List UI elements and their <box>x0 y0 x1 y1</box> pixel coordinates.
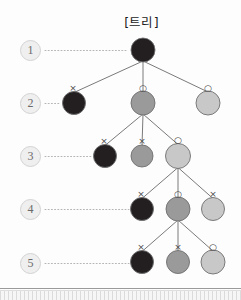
level-badge-1: 1 <box>20 40 41 61</box>
tree-node-n3c[interactable] <box>166 144 191 169</box>
bottom-divider <box>0 288 241 289</box>
level-badge-5: 5 <box>20 253 41 274</box>
tree-node-n5a[interactable] <box>131 251 154 274</box>
tree-node-n5c[interactable] <box>201 250 225 274</box>
node-marker-n5b: × <box>174 242 182 252</box>
tree-node-n2b[interactable] <box>131 91 155 115</box>
tree-edge <box>143 61 208 92</box>
node-marker-n5c: ○ <box>209 242 217 252</box>
node-marker-n2c: ○ <box>204 83 212 93</box>
tree-edge <box>74 61 143 93</box>
tree-node-n2c[interactable] <box>196 91 220 115</box>
tree-edge <box>178 220 213 251</box>
node-marker-n4b: ○ <box>174 189 182 199</box>
tree-node-n4c[interactable] <box>202 198 225 221</box>
node-marker-n3a: × <box>100 136 108 146</box>
node-marker-n2b: ○ <box>139 83 147 93</box>
tree-diagram-canvas: [트리] ×○○××○×○×××○ 12345 <box>0 0 241 300</box>
node-marker-n2a: × <box>69 83 77 93</box>
tree-edge <box>178 168 213 199</box>
tree-node-n5b[interactable] <box>167 251 190 274</box>
level-badge-3: 3 <box>20 146 41 167</box>
level-badge-4: 4 <box>20 199 41 220</box>
tree-node-n4b[interactable] <box>166 197 190 221</box>
tree-node-n4a[interactable] <box>131 198 154 221</box>
tree-node-n3a[interactable] <box>94 145 117 168</box>
level-badge-2: 2 <box>20 93 41 114</box>
tree-node-n3b[interactable] <box>131 145 153 167</box>
node-marker-n3b: × <box>138 136 146 146</box>
tree-edge <box>143 114 178 145</box>
node-marker-n4c: × <box>209 189 217 199</box>
tree-node-n2a[interactable] <box>63 92 86 115</box>
tree-node-n1[interactable] <box>131 38 155 62</box>
node-marker-n3c: ○ <box>174 135 182 145</box>
node-marker-n4a: × <box>137 189 145 199</box>
tree-edge <box>142 168 178 199</box>
node-marker-n5a: × <box>137 242 145 252</box>
bottom-hatch-pattern <box>0 291 241 300</box>
bottom-strip <box>0 290 241 300</box>
tree-edge <box>142 220 178 252</box>
